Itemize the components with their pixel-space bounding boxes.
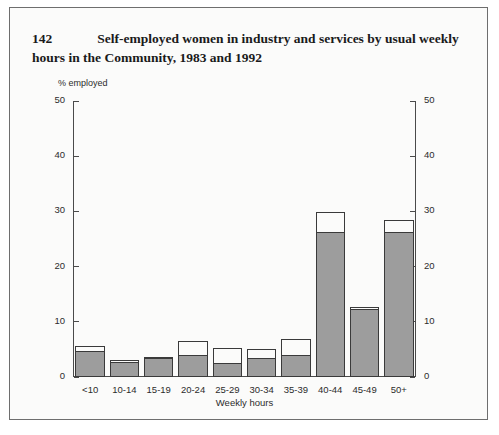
y-tick-label-r-10: 10 [424, 315, 454, 326]
y-tick-r-30 [410, 211, 415, 212]
y-tick-label-l-40: 40 [35, 149, 65, 160]
x-axis-label-10-14: 10-14 [107, 384, 141, 395]
x-axis-label-50+: 50+ [382, 384, 416, 395]
y-tick-label-l-30: 30 [35, 204, 65, 215]
y-tick-label-l-0: 0 [35, 370, 65, 381]
bar-1983-45-49 [350, 309, 379, 377]
chart-figure: 142 Self-employed women in industry and … [9, 7, 488, 420]
bar-1983-50+ [384, 232, 413, 377]
bar-1983-15-19 [144, 358, 173, 377]
y-tick-l-50 [74, 101, 79, 102]
bar-1983-35-39 [281, 355, 310, 377]
y-tick-l-10 [74, 321, 79, 322]
y-tick-label-r-40: 40 [424, 149, 454, 160]
figure-title: 142 Self-employed women in industry and … [32, 29, 462, 67]
x-axis-label-<10: <10 [73, 384, 107, 395]
x-axis-label-15-19: 15-19 [142, 384, 176, 395]
y-tick-label-r-30: 30 [424, 204, 454, 215]
x-axis-label-30-34: 30-34 [245, 384, 279, 395]
x-axis-label-20-24: 20-24 [176, 384, 210, 395]
y-tick-label-r-20: 20 [424, 260, 454, 271]
y-axis-left [73, 101, 74, 377]
y-axis-right [415, 101, 416, 377]
bar-1983-20-24 [178, 355, 207, 377]
figure-title-text: Self-employed women in industry and serv… [32, 31, 459, 65]
x-axis-label-35-39: 35-39 [279, 384, 313, 395]
y-tick-label-l-50: 50 [35, 94, 65, 105]
x-axis-label-45-49: 45-49 [347, 384, 381, 395]
bar-1983-40-44 [316, 232, 345, 377]
y-tick-l-40 [74, 156, 79, 157]
y-tick-label-r-0: 0 [424, 370, 454, 381]
y-tick-l-20 [74, 266, 79, 267]
x-axis-label-25-29: 25-29 [210, 384, 244, 395]
bar-1983-10-14 [110, 362, 139, 377]
y-tick-label-r-50: 50 [424, 94, 454, 105]
y-tick-label-l-10: 10 [35, 315, 65, 326]
x-axis-title: Weekly hours [73, 397, 416, 408]
figure-number: 142 [32, 29, 52, 48]
plot-area: 0010102020303040405050 <1010-1415-1920-2… [73, 101, 416, 377]
y-tick-r-40 [410, 156, 415, 157]
x-axis-label-40-44: 40-44 [313, 384, 347, 395]
bar-1983-<10 [75, 351, 104, 377]
bar-1983-25-29 [213, 363, 242, 377]
y-tick-l-30 [74, 211, 79, 212]
y-tick-r-50 [410, 101, 415, 102]
bar-1983-30-34 [247, 358, 276, 377]
y-axis-unit-label: % employed [58, 78, 108, 88]
y-tick-label-l-20: 20 [35, 260, 65, 271]
